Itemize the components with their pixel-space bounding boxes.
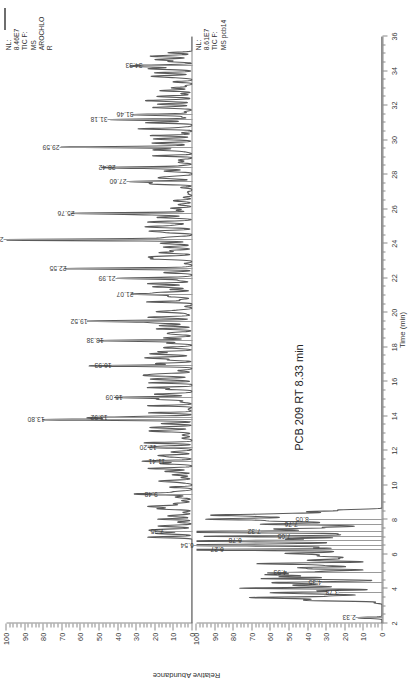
aroclor-y-tick-minor: [109, 623, 110, 627]
pcb-y-tick-label: 20: [340, 632, 349, 640]
pcb-y-tick-minor: [351, 623, 352, 627]
aroclor-y-tick-minor: [76, 623, 77, 627]
pcb-y-tick-minor: [228, 623, 229, 627]
aroclor-y-tick-minor: [87, 623, 88, 627]
time-tick-minor: [382, 354, 385, 355]
time-tick-minor: [382, 121, 385, 122]
pcb-y-tick-minor: [258, 623, 259, 627]
aroclor-y-tick-minor: [27, 623, 28, 627]
time-tick-minor: [382, 570, 385, 571]
aroclor-y-tick-minor: [124, 623, 125, 627]
time-axis: 24681012141618202224262830323436 Time (m…: [382, 36, 408, 623]
time-tick-label: 14: [389, 412, 398, 420]
time-tick-major: [382, 622, 387, 623]
time-tick-minor: [382, 303, 385, 304]
time-tick-minor: [382, 268, 385, 269]
aroclor-y-tick-major: [61, 623, 62, 630]
aroclor-y-tick-minor: [176, 623, 177, 627]
pcb-y-tick-label: 0: [378, 632, 387, 636]
aroclor-y-tick-major: [135, 623, 136, 630]
time-tick-minor: [382, 165, 385, 166]
pcb-y-tick-major: [214, 623, 215, 630]
time-tick-major: [382, 484, 387, 485]
time-tick-label: 10: [389, 481, 398, 489]
time-tick-label: 4: [389, 586, 398, 590]
time-tick-label: 16: [389, 377, 398, 385]
pcb-y-tick-minor: [236, 623, 237, 627]
time-tick-label: 28: [389, 170, 398, 178]
aroclor-y-tick-label: 30: [132, 632, 141, 640]
pcb-y-tick-minor: [348, 623, 349, 627]
pcb-y-tick-minor: [318, 623, 319, 627]
aroclor-y-tick-label: 60: [76, 632, 85, 640]
aroclor-y-tick-major: [98, 623, 99, 630]
pcb-y-tick-label: 80: [229, 632, 238, 640]
pcb-y-tick-minor: [329, 623, 330, 627]
chromatogram-figure: 0102030405060708090100 7.359.4811.4112.2…: [0, 0, 411, 697]
pcb-y-tick-major: [269, 623, 270, 630]
time-tick-minor: [382, 130, 385, 131]
time-tick-major: [382, 380, 387, 381]
time-tick-major: [382, 518, 387, 519]
pcb-y-tick-minor: [240, 623, 241, 627]
time-tick-minor: [382, 432, 385, 433]
aroclor-y-tick-minor: [91, 623, 92, 627]
aroclor-y-tick-minor: [12, 623, 13, 627]
aroclor-y-tick-minor: [169, 623, 170, 627]
pcb-y-tick-minor: [374, 623, 375, 627]
time-tick-minor: [382, 113, 385, 114]
aroclor-y-tick-minor: [57, 623, 58, 627]
pcb-y-tick-minor: [321, 623, 322, 627]
pcb-panel: 0102030405060708090100 2.333.784.354.936…: [196, 36, 382, 623]
pcb-y-tick-minor: [247, 623, 248, 627]
time-tick-minor: [382, 562, 385, 563]
aroclor-y-tick-major: [79, 623, 80, 630]
time-tick-minor: [382, 216, 385, 217]
time-tick-label: 32: [389, 101, 398, 109]
time-tick-label: 36: [389, 32, 398, 40]
aroclor-y-tick-minor: [150, 623, 151, 627]
pcb-y-tick-minor: [255, 623, 256, 627]
aroclor-y-tick-label: 40: [113, 632, 122, 640]
aroclor-y-tick-minor: [146, 623, 147, 627]
aroclor-y-tick-minor: [50, 623, 51, 627]
time-tick-minor: [382, 363, 385, 364]
time-tick-label: 2: [389, 621, 398, 625]
aroclor-y-tick-minor: [83, 623, 84, 627]
aroclor-plot-area: 0102030405060708090100 7.359.4811.4112.2…: [6, 36, 192, 623]
time-tick-minor: [382, 423, 385, 424]
time-tick-minor: [382, 475, 385, 476]
aroclor-y-tick-minor: [72, 623, 73, 627]
time-tick-minor: [382, 225, 385, 226]
pcb-y-tick-minor: [243, 623, 244, 627]
aroclor-y-tick-minor: [53, 623, 54, 627]
aroclor-y-tick-minor: [38, 623, 39, 627]
time-tick-major: [382, 553, 387, 554]
aroclor-y-tick-minor: [139, 623, 140, 627]
aroclor-y-tick-minor: [184, 623, 185, 627]
pcb-y-tick-minor: [266, 623, 267, 627]
peak-rt-value: 24.22: [0, 236, 3, 243]
pcb-y-tick-label: 50: [285, 632, 294, 640]
pcb-y-tick-minor: [303, 623, 304, 627]
time-tick-major: [382, 346, 387, 347]
time-tick-minor: [382, 156, 385, 157]
aroclor-y-tick-label: 90: [20, 632, 29, 640]
time-tick-major: [382, 242, 387, 243]
aroclor-y-tick-minor: [143, 623, 144, 627]
aroclor-y-tick-major: [191, 623, 192, 630]
aroclor-y-tick-major: [154, 623, 155, 630]
time-tick-major: [382, 277, 387, 278]
pcb-y-tick-major: [362, 623, 363, 630]
aroclor-y-tick-major: [117, 623, 118, 630]
time-tick-major: [382, 587, 387, 588]
time-tick-minor: [382, 320, 385, 321]
aroclor-y-tick-major: [42, 623, 43, 630]
pcb-y-tick-minor: [314, 623, 315, 627]
time-tick-minor: [382, 493, 385, 494]
pcb-y-tick-minor: [359, 623, 360, 627]
pcb-y-tick-minor: [206, 623, 207, 627]
pcb-209-annotation: PCB 209 RT 8.33 min: [292, 344, 304, 451]
aroclor-y-tick-major: [24, 623, 25, 630]
time-tick-minor: [382, 613, 385, 614]
